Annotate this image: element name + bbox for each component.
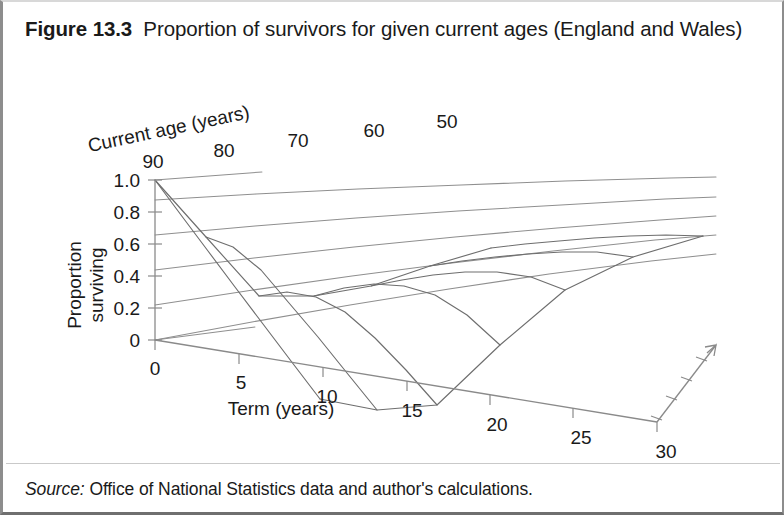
- figure-caption-text: Proportion of survivors for given curren…: [143, 17, 742, 40]
- mesh-age-lines: [155, 177, 716, 340]
- ztick-70: 70: [287, 130, 308, 151]
- ytick-0: 0: [129, 330, 140, 351]
- axis-y: [148, 180, 162, 340]
- ztick-50: 50: [436, 111, 457, 132]
- source-text: Office of National Statistics data and a…: [89, 479, 532, 499]
- xtick-0: 0: [150, 358, 161, 379]
- axis-y-ticklabels: 1.0 0.8 0.6 0.4 0.2 0: [114, 170, 141, 351]
- x-axis-title: Term (years): [228, 398, 335, 419]
- ztick-60: 60: [363, 120, 384, 141]
- source-note: Source: Office of National Statistics da…: [25, 479, 533, 500]
- ytick-1-0: 1.0: [114, 170, 140, 191]
- xtick-30: 30: [655, 441, 676, 460]
- ytick-0-4: 0.4: [114, 266, 141, 287]
- chart-plot-area: 1.0 0.8 0.6 0.4 0.2 0 0 5 10 15 20 25 30…: [3, 90, 784, 460]
- surface-plot-svg: 1.0 0.8 0.6 0.4 0.2 0 0 5 10 15 20 25 30…: [3, 90, 784, 460]
- ytick-0-8: 0.8: [114, 202, 140, 223]
- source-divider: [6, 463, 780, 464]
- xtick-25: 25: [570, 427, 591, 448]
- ytick-0-2: 0.2: [114, 298, 140, 319]
- y-axis-title-line2: surviving: [86, 248, 107, 323]
- xtick-5: 5: [236, 372, 247, 393]
- figure-frame: Figure 13.3 Proportion of survivors for …: [0, 0, 784, 515]
- figure-number: Figure 13.3: [25, 17, 132, 40]
- y-axis-title-line1: Proportion: [64, 241, 85, 329]
- xtick-15: 15: [401, 400, 422, 421]
- axis-z-depth: [651, 345, 716, 422]
- source-label: Source:: [25, 479, 85, 499]
- ztick-80: 80: [213, 140, 234, 161]
- xtick-20: 20: [486, 414, 507, 435]
- figure-caption: Figure 13.3 Proportion of survivors for …: [25, 14, 765, 44]
- y-axis-title: Proportion surviving: [64, 241, 107, 329]
- ztick-90: 90: [142, 151, 163, 172]
- ytick-0-6: 0.6: [114, 234, 140, 255]
